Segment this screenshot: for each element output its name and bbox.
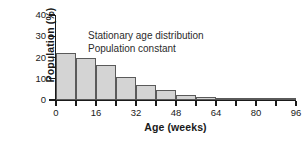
bar <box>56 53 76 100</box>
plot-area <box>56 15 296 100</box>
bar <box>76 58 96 101</box>
x-axis-tick-label: 80 <box>241 108 271 118</box>
chart-figure: Population (%) 010203040 Stationary age … <box>0 0 308 141</box>
annotation-line-2: Population constant <box>88 43 204 56</box>
x-axis-tick <box>95 101 96 106</box>
x-axis-tick <box>195 101 196 106</box>
x-axis-tick <box>215 101 216 106</box>
x-axis-tick <box>255 101 256 106</box>
x-axis-tick-label: 48 <box>161 108 191 118</box>
x-axis-tick <box>275 101 276 106</box>
x-axis-tick <box>295 101 296 106</box>
y-axis-tick <box>49 78 55 79</box>
x-axis-tick-label: 32 <box>121 108 151 118</box>
y-axis-tick-label: 10 <box>22 74 46 84</box>
bar <box>116 77 136 100</box>
x-axis-tick-label: 16 <box>81 108 111 118</box>
y-axis-tick-label: 40 <box>22 10 46 20</box>
bar <box>156 90 176 100</box>
annotation-line-1: Stationary age distribution <box>88 30 204 43</box>
y-axis-tick-label: 30 <box>22 31 46 41</box>
x-axis-tick-label: 96 <box>281 108 308 118</box>
x-axis-tick <box>135 101 136 106</box>
x-axis-tick <box>55 101 56 106</box>
y-axis-tick <box>49 57 55 58</box>
y-axis-tick <box>49 14 55 15</box>
x-axis-tick <box>115 101 116 106</box>
bar <box>136 85 156 100</box>
x-axis-tick-label: 64 <box>201 108 231 118</box>
x-axis-tick <box>235 101 236 106</box>
y-axis-tick-label: 0 <box>22 95 46 105</box>
x-axis-tick <box>175 101 176 106</box>
y-axis-tick <box>49 36 55 37</box>
x-axis-tick <box>155 101 156 106</box>
y-axis-tick-label: 20 <box>22 53 46 63</box>
x-axis-tick-label: 0 <box>41 108 71 118</box>
chart-annotation: Stationary age distribution Population c… <box>88 30 204 55</box>
bar <box>96 65 116 100</box>
x-axis-tick <box>75 101 76 106</box>
x-axis-title: Age (weeks) <box>55 121 296 133</box>
